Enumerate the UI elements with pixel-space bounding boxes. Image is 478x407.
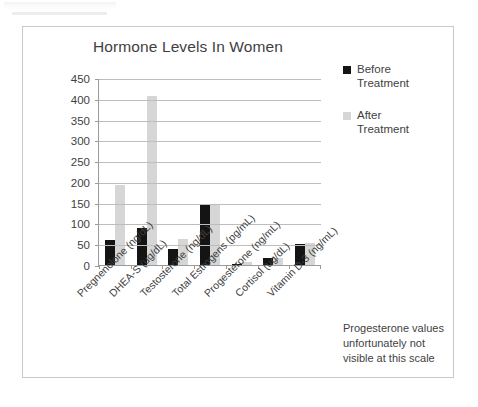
scan-artifact-top xyxy=(4,2,116,11)
y-tick-mark xyxy=(95,141,99,142)
y-tick-label: 100 xyxy=(71,218,90,230)
y-tick-label: 350 xyxy=(71,115,90,127)
legend-label-before: Before Treatment xyxy=(357,62,441,90)
y-tick-mark xyxy=(95,183,99,184)
legend-label-before-line1: Before xyxy=(357,63,391,75)
y-tick-label: 450 xyxy=(71,73,90,85)
gridline xyxy=(99,79,321,80)
footnote-line-2: unfortunately not xyxy=(343,337,425,349)
chart-title: Hormone Levels In Women xyxy=(23,38,353,56)
y-tick-label: 50 xyxy=(77,239,90,251)
legend-item-after[interactable]: After Treatment xyxy=(343,108,451,136)
legend-label-after-line2: Treatment xyxy=(357,123,409,135)
gridline xyxy=(99,204,321,205)
y-tick-label: 200 xyxy=(71,177,90,189)
plot-wrapper: 450400350300250200150100500 xyxy=(58,79,343,279)
footnote-line-1: Progesterone values xyxy=(343,322,444,334)
chart-container: Hormone Levels In Women Before Treatment… xyxy=(22,26,454,378)
legend-item-before[interactable]: Before Treatment xyxy=(343,62,451,90)
y-tick-mark xyxy=(95,79,99,80)
square-marker-icon xyxy=(343,66,351,74)
scan-artifact-line xyxy=(12,12,107,15)
footnote-line-3: visible at this scale xyxy=(343,352,435,364)
y-tick-label: 150 xyxy=(71,198,90,210)
legend-label-after-line1: After xyxy=(357,109,381,121)
legend-label-after: After Treatment xyxy=(357,108,441,136)
y-tick-mark xyxy=(95,204,99,205)
y-tick-mark xyxy=(95,245,99,246)
y-tick-mark xyxy=(95,162,99,163)
y-tick-mark xyxy=(95,121,99,122)
y-tick-mark xyxy=(95,224,99,225)
gridline xyxy=(99,141,321,142)
gridline xyxy=(99,100,321,101)
gridline xyxy=(99,162,321,163)
x-tick-mark xyxy=(320,265,321,269)
chart-legend: Before Treatment After Treatment xyxy=(343,62,451,154)
y-tick-label: 250 xyxy=(71,156,90,168)
gridline xyxy=(99,183,321,184)
gridline xyxy=(99,224,321,225)
x-axis-category-labels: Pregnenolone (ng/dL)DHEA-S (ug/dL)Testos… xyxy=(23,285,363,395)
legend-label-before-line2: Treatment xyxy=(357,77,409,89)
y-tick-label: 300 xyxy=(71,135,90,147)
gridline xyxy=(99,121,321,122)
y-axis: 450400350300250200150100500 xyxy=(58,79,94,266)
y-tick-label: 400 xyxy=(71,94,90,106)
square-marker-icon xyxy=(343,112,351,120)
y-tick-mark xyxy=(95,100,99,101)
chart-footnote: Progesterone values unfortunately not vi… xyxy=(343,321,455,366)
y-tick-label: 0 xyxy=(84,260,90,272)
